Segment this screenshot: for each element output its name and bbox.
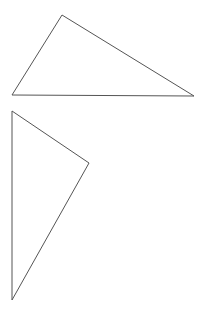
shapes-layer [0, 0, 206, 320]
triangle-1 [12, 15, 194, 96]
diagram-canvas [0, 0, 206, 320]
triangle-2 [12, 111, 89, 300]
